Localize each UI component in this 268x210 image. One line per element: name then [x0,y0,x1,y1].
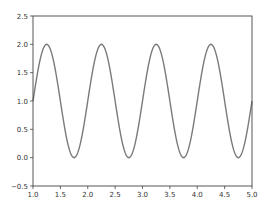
x-tick-label: 1.0 [27,191,38,199]
x-tick-label: 4.0 [192,191,203,199]
x-tick-label: 5.0 [246,191,257,199]
x-tick-label: 3.0 [137,191,148,199]
sine-line-chart: −0.50.00.51.01.52.02.5 1.01.52.02.53.03.… [0,0,268,210]
sine-curve [33,44,252,157]
x-tick-label: 4.5 [219,191,230,199]
y-tick-label: 1.0 [17,98,28,106]
x-tick-label: 2.0 [82,191,93,199]
y-tick-label: 0.0 [17,154,28,162]
y-tick-label: 2.0 [17,41,28,49]
x-axis-ticks: 1.01.52.02.53.03.54.04.55.0 [27,186,257,199]
y-tick-label: 0.5 [17,126,28,134]
y-tick-label: 2.5 [17,13,28,21]
x-tick-label: 2.5 [110,191,121,199]
x-tick-label: 1.5 [55,191,66,199]
y-tick-label: −0.5 [11,183,28,191]
x-tick-label: 3.5 [164,191,175,199]
y-tick-label: 1.5 [17,69,28,77]
y-axis-ticks: −0.50.00.51.01.52.02.5 [11,13,33,191]
